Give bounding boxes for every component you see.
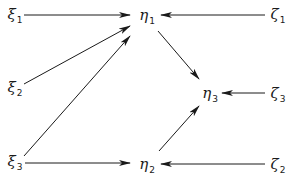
node-subscript: 1: [17, 15, 23, 25]
node-eta3: η3: [202, 86, 218, 104]
edges-layer: [0, 0, 297, 183]
node-symbol: ζ: [271, 84, 279, 102]
node-subscript: 3: [212, 94, 218, 104]
arrow-eta2-to-eta3: [159, 106, 199, 151]
arrow-xi2-to-eta1: [24, 26, 130, 84]
node-symbol: ξ: [8, 152, 16, 170]
node-subscript: 3: [280, 94, 286, 104]
edge-group: [24, 15, 265, 164]
node-zeta3: ζ3: [271, 86, 286, 104]
node-symbol: η: [139, 6, 148, 24]
node-xi2: ξ2: [8, 80, 23, 98]
node-xi1: ξ1: [8, 7, 23, 25]
node-symbol: η: [202, 84, 211, 102]
node-subscript: 1: [280, 15, 286, 25]
node-symbol: ζ: [271, 155, 279, 173]
node-symbol: η: [139, 155, 148, 173]
node-zeta1: ζ1: [271, 7, 286, 25]
node-subscript: 2: [17, 88, 23, 98]
node-symbol: ξ: [8, 5, 16, 23]
node-subscript: 2: [149, 165, 155, 175]
node-eta2: η2: [139, 157, 155, 175]
node-zeta2: ζ2: [271, 157, 286, 175]
arrow-xi3-to-eta1: [24, 36, 130, 156]
node-symbol: ξ: [8, 78, 16, 96]
node-subscript: 1: [149, 16, 155, 26]
node-symbol: ζ: [271, 5, 279, 23]
node-subscript: 3: [17, 162, 23, 172]
node-subscript: 2: [280, 165, 286, 175]
arrow-eta1-to-eta3: [158, 31, 199, 79]
node-eta1: η1: [139, 8, 155, 26]
path-diagram: ξ1ξ2ξ3η1η2η3ζ1ζ3ζ2: [0, 0, 297, 183]
node-xi3: ξ3: [8, 154, 23, 172]
